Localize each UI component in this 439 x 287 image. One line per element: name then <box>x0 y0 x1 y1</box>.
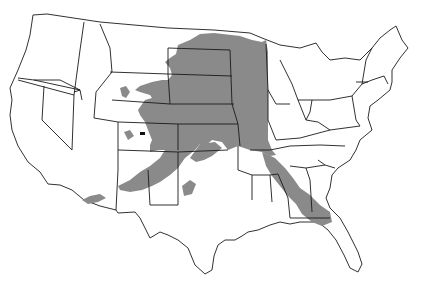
us-range-map <box>0 0 439 287</box>
map-svg <box>0 0 439 287</box>
marker-point <box>140 132 145 135</box>
